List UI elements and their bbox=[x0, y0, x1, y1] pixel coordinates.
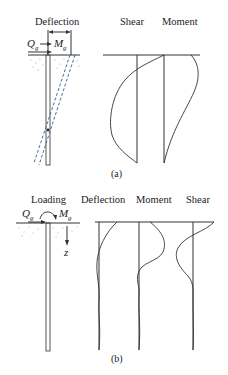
label-shear-a: Shear bbox=[120, 16, 144, 27]
arrow-icon bbox=[40, 42, 52, 46]
load-Qg-b: Q g bbox=[22, 207, 34, 222]
moment-diagram-a bbox=[164, 55, 198, 163]
depth-axis-arrow-icon bbox=[65, 226, 69, 246]
svg-text:g: g bbox=[63, 44, 67, 52]
load-Qg-a: Q g bbox=[27, 37, 39, 52]
moment-arrow-icon bbox=[40, 212, 57, 220]
arrow-icon bbox=[28, 50, 52, 54]
label-deflection-b: Deflection bbox=[81, 194, 126, 205]
svg-text:Q: Q bbox=[27, 37, 35, 49]
pile-a bbox=[46, 55, 50, 165]
label-moment-b: Moment bbox=[136, 194, 172, 205]
label-shear-b: Shear bbox=[186, 194, 210, 205]
label-deflection-a: Deflection bbox=[35, 16, 80, 27]
soil-texture-b bbox=[19, 227, 78, 238]
label-loading-b: Loading bbox=[31, 194, 67, 205]
panel-b: Loading Deflection Moment Shear Q g M g bbox=[16, 194, 214, 365]
shear-diagram-a bbox=[111, 55, 164, 163]
load-Mg-a: M g bbox=[53, 37, 67, 52]
shear-diagram-b bbox=[176, 222, 214, 350]
label-moment-a: Moment bbox=[162, 16, 198, 27]
svg-text:g: g bbox=[68, 214, 72, 222]
depth-axis-label: z bbox=[63, 246, 69, 258]
svg-text:g: g bbox=[30, 214, 34, 222]
load-Mg-b: M g bbox=[58, 207, 72, 222]
moment-diagram-b bbox=[137, 222, 164, 350]
panel-a: Deflection Shear Moment Q g M g bbox=[27, 16, 200, 180]
caption-b: (b) bbox=[111, 353, 123, 365]
svg-text:Q: Q bbox=[22, 207, 30, 219]
soil-texture-a bbox=[31, 59, 80, 71]
pile-lateral-load-diagram: Deflection Shear Moment Q g M g bbox=[0, 0, 228, 375]
caption-a: (a) bbox=[111, 168, 122, 180]
svg-text:g: g bbox=[35, 44, 39, 52]
deflected-pile-a bbox=[34, 55, 75, 165]
pile-b bbox=[46, 223, 50, 351]
rotation-point-a bbox=[47, 129, 50, 132]
deflection-diagram-b bbox=[97, 222, 117, 350]
